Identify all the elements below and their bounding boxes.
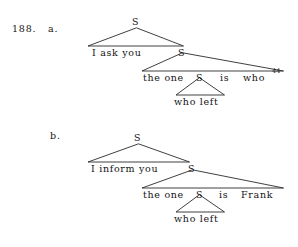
example-a-node-inner: S bbox=[196, 73, 203, 83]
example-b-terminal-matrix-clause: I inform you bbox=[91, 164, 158, 174]
example-a-node-root: S bbox=[132, 17, 139, 27]
example-a-terminal-subject: the one bbox=[143, 73, 184, 83]
tree-a-triangle-embedded bbox=[142, 53, 283, 71]
example-b-node-root: S bbox=[134, 133, 141, 143]
example-a-terminal-matrix-clause: I ask you bbox=[92, 48, 142, 58]
tree-b-triangle-embedded bbox=[142, 170, 283, 188]
syntax-tree-figure: 188. a. S I ask you S the one S is who 4… bbox=[0, 0, 298, 247]
tree-line-layer bbox=[0, 0, 298, 247]
example-b-item-label: b. bbox=[50, 131, 61, 141]
example-number-label: 188. bbox=[12, 24, 36, 34]
example-b-terminal-copula: is bbox=[219, 190, 228, 200]
example-a-item-label: a. bbox=[48, 24, 58, 34]
example-b-node-embedded: S bbox=[188, 164, 195, 174]
example-a-terminal-relative-clause: who left bbox=[174, 97, 219, 107]
example-a-terminal-copula: is bbox=[220, 73, 229, 83]
example-b-terminal-predicate: Frank bbox=[241, 190, 273, 200]
tree-a-triangle-outer bbox=[88, 28, 183, 46]
example-a-footnote-marker: 44 bbox=[272, 68, 280, 75]
example-b-node-inner: S bbox=[196, 190, 203, 200]
example-a-node-embedded: S bbox=[178, 48, 185, 58]
example-b-terminal-subject: the one bbox=[143, 190, 184, 200]
example-b-terminal-relative-clause: who left bbox=[174, 214, 219, 224]
tree-b-triangle-outer bbox=[88, 144, 189, 162]
example-a-terminal-predicate: who bbox=[243, 73, 265, 83]
